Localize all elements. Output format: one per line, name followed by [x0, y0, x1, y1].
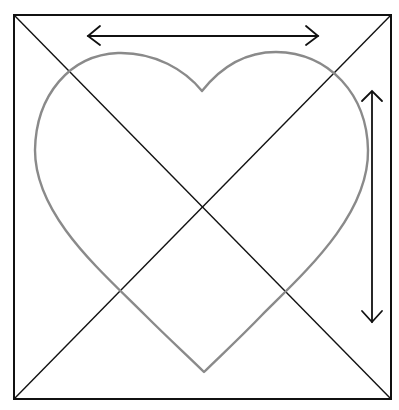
heart-in-square-diagram — [0, 0, 399, 410]
